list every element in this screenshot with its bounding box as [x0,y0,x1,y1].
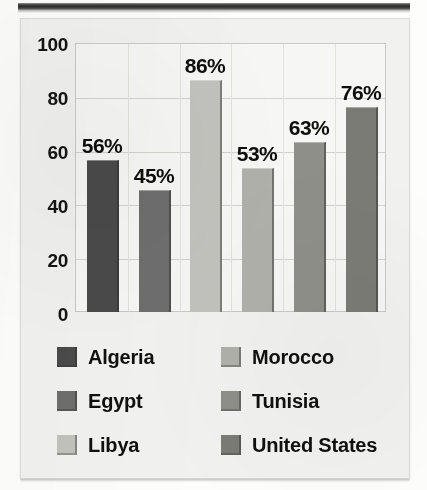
bar-fill-united-states [346,107,378,312]
bar-label-morocco: 53% [237,143,278,164]
vgridline-2 [180,44,181,311]
legend-label-morocco: Morocco [252,347,334,367]
bar-fill-libya [190,80,222,312]
bar-fill-algeria [87,160,119,312]
bar-tunisia[interactable]: 63% [294,142,324,312]
plot-wrapper: 100 80 60 40 20 0 56% [21,19,409,319]
vgridline-4 [283,44,284,311]
legend-swatch-libya [57,435,77,455]
legend-row-3: Libya United States [57,429,397,469]
legend-item-tunisia[interactable]: Tunisia [221,385,319,417]
bar-fill-morocco [242,168,274,312]
legend-swatch-morocco [221,347,241,367]
legend-swatch-tunisia [221,391,241,411]
bar-fill-tunisia [294,142,326,313]
page-top-rule-shadow [18,10,410,13]
legend-item-algeria[interactable]: Algeria [57,341,154,373]
bar-united-states[interactable]: 76% [346,107,376,311]
legend-label-tunisia: Tunisia [252,391,319,411]
bar-label-tunisia: 63% [289,117,330,138]
bar-label-united-states: 76% [341,82,382,103]
vgridline-1 [128,44,129,311]
legend-item-united-states[interactable]: United States [221,429,377,461]
vgridline-3 [231,44,232,311]
legend-label-algeria: Algeria [88,347,154,367]
legend-swatch-algeria [57,347,77,367]
chart-legend: Algeria Morocco Egypt Tunisia [57,341,397,461]
bar-fill-egypt [139,190,171,312]
legend-swatch-united-states [221,435,241,455]
bar-label-egypt: 45% [134,165,175,186]
legend-item-libya[interactable]: Libya [57,429,139,461]
vgridline-5 [335,44,336,311]
plot-area: 56% 45% 86% 53% 63% [75,43,386,312]
legend-item-morocco[interactable]: Morocco [221,341,334,373]
y-axis-tick-0: 0 [24,305,68,324]
legend-label-united-states: United States [252,435,377,455]
legend-row-1: Algeria Morocco [57,341,397,381]
bar-egypt[interactable]: 45% [139,190,169,311]
bar-morocco[interactable]: 53% [242,168,272,311]
y-axis-tick-20: 20 [24,251,68,270]
bar-algeria[interactable]: 56% [87,160,117,311]
bar-label-libya: 86% [185,55,226,76]
legend-swatch-egypt [57,391,77,411]
page-top-rule [18,3,410,10]
y-axis-tick-40: 40 [24,197,68,216]
legend-label-libya: Libya [88,435,139,455]
legend-row-2: Egypt Tunisia [57,385,397,425]
bar-label-algeria: 56% [82,135,123,156]
legend-label-egypt: Egypt [88,391,143,411]
legend-item-egypt[interactable]: Egypt [57,385,143,417]
y-axis-tick-100: 100 [24,35,68,54]
scanned-page: 100 80 60 40 20 0 56% [0,0,427,490]
bar-libya[interactable]: 86% [190,80,220,311]
y-axis-tick-80: 80 [24,89,68,108]
chart-card: 100 80 60 40 20 0 56% [20,18,410,480]
y-axis-tick-60: 60 [24,143,68,162]
